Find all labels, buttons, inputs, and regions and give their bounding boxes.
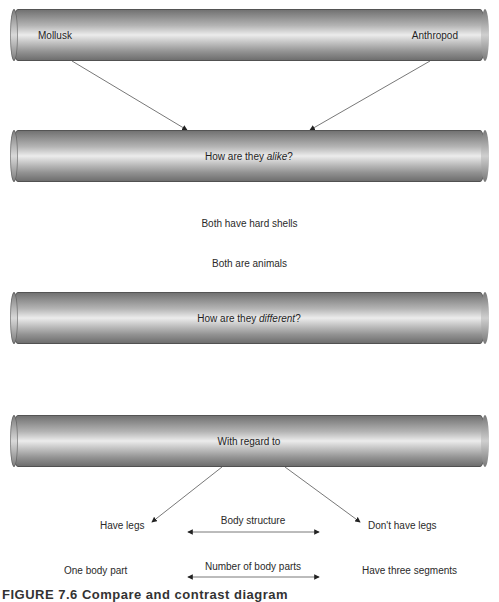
cylinder-regard: With regard to xyxy=(12,415,486,467)
arrow-regard-to-right xyxy=(285,467,360,522)
similarity-item: Both have hard shells xyxy=(0,218,499,229)
label-with-regard-to: With regard to xyxy=(12,436,486,447)
arrow-anthropod-to-alike xyxy=(310,61,430,130)
question-alike: How are they alike? xyxy=(12,151,486,162)
similarity-item: Both are animals xyxy=(0,258,499,269)
label-mollusk: Mollusk xyxy=(38,30,72,41)
cylinder-alike: How are they alike? xyxy=(12,130,486,182)
difference-right: Have three segments xyxy=(362,565,457,576)
figure-caption: FIGURE 7.6 Compare and contrast diagram xyxy=(2,587,288,602)
arrow-regard-to-left xyxy=(152,467,222,522)
difference-right: Don't have legs xyxy=(368,520,437,531)
cylinder-top: Mollusk Anthropod xyxy=(12,9,486,61)
question-different: How are they different? xyxy=(12,313,486,324)
cylinder-different: How are they different? xyxy=(12,292,486,344)
label-anthropod: Anthropod xyxy=(412,30,458,41)
arrow-mollusk-to-alike xyxy=(72,61,187,130)
